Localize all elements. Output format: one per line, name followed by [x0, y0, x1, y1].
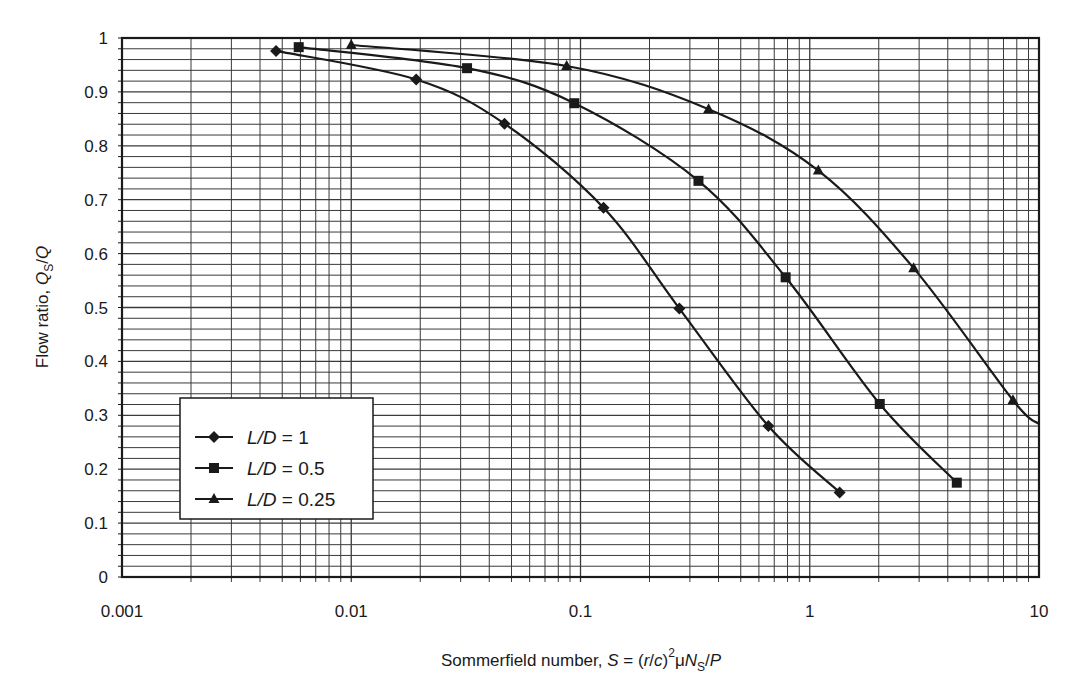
y-tick-label: 0	[99, 568, 108, 587]
y-tick-label: 0.8	[84, 137, 108, 156]
y-tick-label: 0.1	[84, 514, 108, 533]
legend-label: L/D = 1	[247, 427, 309, 448]
x-tick-label: 1	[805, 602, 814, 621]
y-axis-ticks: 00.10.20.30.40.50.60.70.80.91	[84, 29, 122, 587]
y-tick-label: 0.3	[84, 406, 108, 425]
x-tick-label: 0.1	[569, 602, 593, 621]
square-marker-icon	[781, 272, 791, 282]
series-triangle	[346, 39, 1039, 424]
legend-label: L/D = 0.25	[247, 489, 335, 510]
x-axis-title: Sommerfield number, S = (r/c)2μNS/P	[441, 646, 722, 674]
y-axis-title: Flow ratio, QS/Q	[33, 246, 56, 368]
y-tick-label: 0.6	[84, 245, 108, 264]
square-marker-icon	[294, 42, 304, 52]
y-tick-label: 1	[99, 29, 108, 48]
series-line	[351, 45, 1039, 424]
series-square	[294, 42, 962, 488]
flow-ratio-chart: 00.10.20.30.40.50.60.70.80.91 0.0010.010…	[0, 0, 1077, 700]
x-tick-label: 0.001	[101, 602, 144, 621]
series-line	[299, 47, 957, 483]
triangle-marker-icon	[346, 39, 357, 49]
data-series	[270, 39, 1039, 498]
y-tick-label: 0.5	[84, 299, 108, 318]
square-marker-icon	[462, 63, 472, 73]
legend-label: L/D = 0.5	[247, 458, 325, 479]
legend: L/D = 1L/D = 0.5L/D = 0.25	[180, 398, 373, 519]
x-axis-ticks: 0.0010.010.1110	[101, 602, 1049, 621]
square-marker-icon	[875, 399, 885, 409]
square-marker-icon	[209, 463, 219, 473]
square-marker-icon	[952, 478, 962, 488]
y-tick-label: 0.9	[84, 83, 108, 102]
diamond-marker-icon	[270, 45, 282, 57]
square-marker-icon	[693, 176, 703, 186]
y-tick-label: 0.7	[84, 191, 108, 210]
y-tick-label: 0.4	[84, 352, 108, 371]
triangle-marker-icon	[813, 165, 824, 175]
square-marker-icon	[569, 98, 579, 108]
y-tick-label: 0.2	[84, 460, 108, 479]
x-tick-label: 0.01	[335, 602, 368, 621]
x-tick-label: 10	[1030, 602, 1049, 621]
